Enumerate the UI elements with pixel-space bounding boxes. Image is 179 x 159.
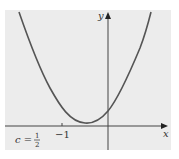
annotation-fraction-num: 1 (35, 132, 39, 140)
chart-svg: x y −1 c = 1 2 (0, 0, 179, 159)
x-axis-label: x (163, 128, 169, 139)
annotation-fraction-den: 2 (35, 141, 39, 149)
x-tick-label: −1 (55, 129, 70, 140)
annotation-c-label: c = (15, 134, 32, 145)
y-axis-arrow-icon (105, 12, 111, 19)
curve-line (19, 12, 151, 123)
y-axis-label: y (97, 10, 104, 21)
annotation-c: c = (15, 134, 32, 145)
